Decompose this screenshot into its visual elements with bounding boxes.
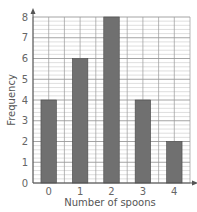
y-tick-label: 5 [22,74,28,85]
y-tick-label: 2 [22,136,28,147]
bar-chart: 012345678 01234 Number of spoons Frequen… [0,0,197,212]
bar-1 [72,59,88,184]
y-tick-label: 4 [22,95,28,106]
x-tick-label: 4 [171,186,177,197]
y-tick-label: 7 [22,32,28,43]
y-tick-labels: 012345678 [22,12,28,189]
y-tick-label: 8 [22,12,28,23]
x-tick-label: 0 [46,186,52,197]
x-tick-label: 1 [77,186,83,197]
bar-0 [41,100,57,183]
bar-4 [167,142,183,184]
y-tick-label: 6 [22,53,28,64]
x-tick-label: 2 [108,186,114,197]
y-tick-label: 3 [22,115,28,126]
bar-2 [104,17,120,183]
x-tick-labels: 01234 [46,186,178,197]
y-axis-arrow-icon [31,8,36,14]
x-axis-label: Number of spoons [64,197,156,208]
bar-3 [135,100,151,183]
y-tick-label: 0 [22,178,28,189]
x-tick-label: 3 [140,186,146,197]
x-axis-arrow-icon [192,181,197,186]
y-axis-label: Frequency [6,74,17,126]
y-tick-label: 1 [22,157,28,168]
